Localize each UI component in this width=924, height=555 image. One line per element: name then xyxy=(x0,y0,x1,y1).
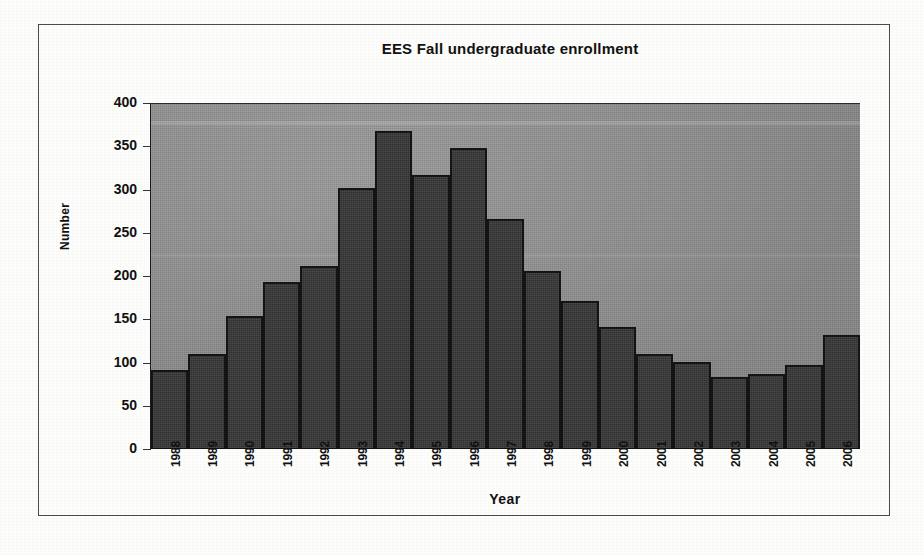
y-axis-tick-label: 200 xyxy=(95,268,137,282)
x-axis-tick-label: 2006 xyxy=(841,441,855,467)
y-axis-title: Number xyxy=(58,203,72,250)
x-axis-tick: 1990 xyxy=(225,452,262,494)
x-axis-tick: 2002 xyxy=(673,452,710,494)
x-axis-tick: 1993 xyxy=(337,452,374,494)
x-axis-tick: 2004 xyxy=(748,452,785,494)
bar xyxy=(599,327,636,448)
chart-title: EES Fall undergraduate enrollment xyxy=(150,40,870,57)
x-axis-tick: 1998 xyxy=(524,452,561,494)
y-axis-tick-label: 150 xyxy=(95,311,137,325)
x-axis-tick: 1989 xyxy=(187,452,224,494)
bar xyxy=(823,335,860,448)
x-axis-tick: 1994 xyxy=(374,452,411,494)
y-axis-tick-label: 400 xyxy=(95,95,137,109)
plot-area xyxy=(150,103,860,449)
y-axis-tick-label: 350 xyxy=(95,138,137,152)
bar xyxy=(188,354,225,448)
x-axis-tick-label: 1994 xyxy=(393,441,407,467)
x-axis-tick: 2003 xyxy=(711,452,748,494)
x-axis-tick-label: 2004 xyxy=(767,441,781,467)
bar xyxy=(524,271,561,448)
y-axis-tick-label: 0 xyxy=(95,441,137,455)
y-axis-tick-label: 50 xyxy=(95,398,137,412)
x-axis-tick-label: 1993 xyxy=(356,441,370,467)
bar xyxy=(487,219,524,448)
x-axis-tick-label: 1998 xyxy=(542,441,556,467)
x-axis-tick-label: 1989 xyxy=(206,441,220,467)
bar xyxy=(785,365,822,448)
bar xyxy=(151,370,188,448)
x-axis-tick-label: 1995 xyxy=(430,441,444,467)
x-axis-title: Year xyxy=(150,491,860,507)
x-axis-tick-label: 1991 xyxy=(281,441,295,467)
bar xyxy=(226,316,263,448)
x-axis-tick: 1997 xyxy=(486,452,523,494)
bar xyxy=(711,377,748,448)
bar xyxy=(375,131,412,448)
x-axis-tick: 2005 xyxy=(785,452,822,494)
x-axis-tick: 1991 xyxy=(262,452,299,494)
x-axis-tick-label: 2002 xyxy=(692,441,706,467)
x-axis-tick-label: 2005 xyxy=(804,441,818,467)
bar xyxy=(338,188,375,448)
x-axis-tick-label: 2003 xyxy=(729,441,743,467)
y-axis-tick-label: 250 xyxy=(95,225,137,239)
x-axis-tick-label: 2001 xyxy=(655,441,669,467)
y-axis-tick-label: 300 xyxy=(95,182,137,196)
x-axis-tick-label: 1996 xyxy=(468,441,482,467)
bar xyxy=(636,354,673,448)
x-axis-tick-label: 1997 xyxy=(505,441,519,467)
bar xyxy=(300,266,337,448)
bar-series xyxy=(151,104,860,448)
y-axis-tick xyxy=(143,449,151,450)
bar xyxy=(673,362,710,448)
x-axis-tick: 2001 xyxy=(636,452,673,494)
x-axis-tick-label: 1999 xyxy=(580,441,594,467)
x-axis-tick-label: 2000 xyxy=(617,441,631,467)
bar xyxy=(561,301,598,448)
bar xyxy=(412,175,449,448)
bar xyxy=(748,374,785,448)
x-axis-tick: 2000 xyxy=(599,452,636,494)
x-axis-tick: 1995 xyxy=(412,452,449,494)
x-axis-tick-label: 1988 xyxy=(169,441,183,467)
x-axis-tick-label: 1990 xyxy=(243,441,257,467)
bar xyxy=(450,148,487,448)
y-axis-tick-label: 100 xyxy=(95,355,137,369)
x-axis-tick-label: 1992 xyxy=(318,441,332,467)
x-axis-tick: 1999 xyxy=(561,452,598,494)
bar xyxy=(263,282,300,448)
x-axis-tick-labels: 1988198919901991199219931994199519961997… xyxy=(150,452,860,494)
x-axis-tick: 2006 xyxy=(823,452,860,494)
x-axis-tick: 1992 xyxy=(300,452,337,494)
x-axis-tick: 1996 xyxy=(449,452,486,494)
x-axis-tick: 1988 xyxy=(150,452,187,494)
